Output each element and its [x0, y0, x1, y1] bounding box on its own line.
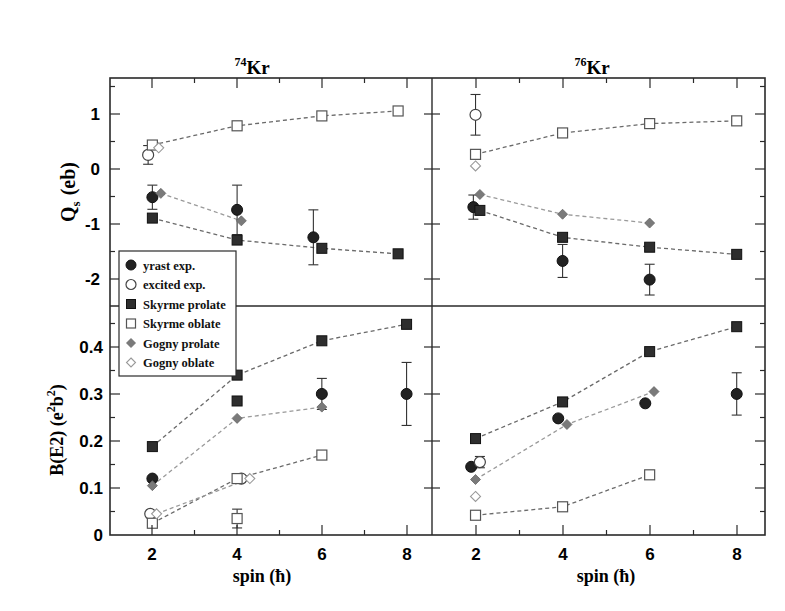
title-74kr: 74Kr — [234, 55, 270, 78]
chart-figure: 74Kr 76Kr 1 0 -1 -2 0.4 0.3 0.2 0.1 0 2 … — [0, 0, 785, 611]
marker-yrast-exp — [640, 398, 651, 409]
svg-text:6: 6 — [317, 545, 326, 564]
marker-skyrme-prolate — [317, 336, 327, 346]
panel-bottom-right — [466, 322, 743, 521]
svg-text:-1: -1 — [85, 215, 100, 234]
top-y-tick-labels: 1 0 -1 -2 — [85, 105, 100, 289]
marker-skyrme-prolate — [147, 442, 157, 452]
marker-skyrme-prolate — [393, 249, 403, 259]
marker-gogny-prolate — [471, 475, 481, 485]
svg-text:0: 0 — [94, 526, 103, 545]
marker-yrast-exp — [316, 388, 327, 399]
legend: yrast exp.excited exp.Skyrme prolateSkyr… — [119, 251, 236, 376]
marker-skyrme-prolate — [147, 213, 157, 223]
marker-skyrme-oblate — [558, 128, 568, 138]
series-line — [161, 193, 242, 220]
marker-skyrme-prolate — [645, 242, 655, 252]
marker-skyrme-prolate — [402, 319, 412, 329]
marker-skyrme-prolate — [558, 232, 568, 242]
svg-text:0.3: 0.3 — [79, 385, 103, 404]
panel-top-right — [468, 94, 742, 295]
svg-text:2: 2 — [471, 545, 480, 564]
marker-skyrme-oblate — [393, 106, 403, 116]
series-line — [476, 327, 737, 439]
marker-skyrme-prolate — [732, 322, 742, 332]
marker-excited-exp — [126, 280, 136, 290]
marker-skyrme-prolate — [232, 396, 242, 406]
marker-skyrme-prolate — [558, 397, 568, 407]
series-line — [152, 111, 398, 145]
marker-yrast-exp — [308, 232, 319, 243]
marker-skyrme-oblate — [127, 319, 136, 328]
x-axis-labels: spin (ħ) spin (ħ) — [233, 566, 636, 587]
svg-text:1: 1 — [91, 105, 100, 124]
series-line — [480, 210, 737, 254]
marker-skyrme-prolate — [232, 235, 242, 245]
marker-skyrme-oblate — [471, 149, 481, 159]
marker-skyrme-prolate — [127, 300, 136, 309]
legend-label: Skyrme oblate — [143, 317, 221, 331]
svg-text:0.4: 0.4 — [79, 338, 103, 357]
x-axis-label-left: spin (ħ) — [233, 566, 292, 587]
marker-skyrme-oblate — [558, 502, 568, 512]
marker-skyrme-oblate — [317, 450, 327, 460]
marker-skyrme-prolate — [317, 243, 327, 253]
marker-gogny-prolate — [236, 216, 246, 226]
marker-skyrme-prolate — [732, 249, 742, 259]
marker-skyrme-oblate — [232, 474, 242, 484]
svg-text:0: 0 — [91, 160, 100, 179]
marker-gogny-prolate — [317, 402, 327, 412]
svg-text:4: 4 — [558, 545, 568, 564]
marker-skyrme-oblate — [645, 470, 655, 480]
marker-skyrme-oblate — [232, 514, 242, 524]
svg-text:6: 6 — [645, 545, 654, 564]
top-y-axis-label: Qs(eb) — [57, 162, 83, 222]
svg-text:8: 8 — [402, 545, 411, 564]
svg-text:0.2: 0.2 — [79, 432, 103, 451]
marker-skyrme-oblate — [317, 111, 327, 121]
x-tick-labels: 2 4 6 8 2 4 6 8 — [147, 545, 741, 564]
marker-skyrme-prolate — [645, 347, 655, 357]
marker-gogny-prolate — [649, 387, 659, 397]
title-76kr: 76Kr — [574, 55, 610, 78]
svg-text:-2: -2 — [85, 270, 100, 289]
legend-label: excited exp. — [143, 278, 205, 292]
series-line — [480, 194, 650, 223]
legend-label: Gogny oblate — [143, 356, 215, 370]
marker-gogny-oblate — [471, 161, 481, 171]
marker-yrast-exp — [401, 388, 412, 399]
marker-excited-exp — [474, 457, 485, 468]
series-line — [476, 121, 737, 155]
marker-gogny-prolate — [645, 218, 655, 228]
marker-excited-exp — [143, 149, 154, 160]
bottom-y-axis-label: B(E2) (e2b2) — [44, 384, 68, 476]
x-axis-label-right: spin (ħ) — [577, 566, 636, 587]
svg-text:2: 2 — [147, 545, 156, 564]
bottom-y-tick-labels: 0.4 0.3 0.2 0.1 0 — [79, 338, 103, 545]
marker-skyrme-oblate — [232, 121, 242, 131]
marker-excited-exp — [470, 109, 481, 120]
legend-label: Gogny prolate — [143, 337, 220, 351]
marker-gogny-oblate — [471, 491, 481, 501]
marker-skyrme-oblate — [471, 510, 481, 520]
marker-skyrme-prolate — [475, 205, 485, 215]
marker-skyrme-oblate — [645, 119, 655, 129]
marker-yrast-exp — [557, 255, 568, 266]
legend-label: Skyrme prolate — [143, 298, 226, 312]
marker-yrast-exp — [126, 260, 136, 270]
marker-skyrme-prolate — [471, 434, 481, 444]
marker-gogny-prolate — [558, 209, 568, 219]
legend-label: yrast exp. — [143, 259, 195, 273]
marker-yrast-exp — [731, 388, 742, 399]
svg-text:8: 8 — [732, 545, 741, 564]
marker-gogny-prolate — [475, 189, 485, 199]
series-line — [152, 218, 398, 254]
marker-yrast-exp — [644, 274, 655, 285]
svg-text:4: 4 — [232, 545, 242, 564]
marker-yrast-exp — [232, 204, 243, 215]
panel-top-left — [143, 106, 403, 265]
svg-text:0.1: 0.1 — [79, 479, 103, 498]
marker-yrast-exp — [553, 413, 564, 424]
marker-gogny-prolate — [232, 413, 242, 423]
marker-skyrme-oblate — [732, 116, 742, 126]
